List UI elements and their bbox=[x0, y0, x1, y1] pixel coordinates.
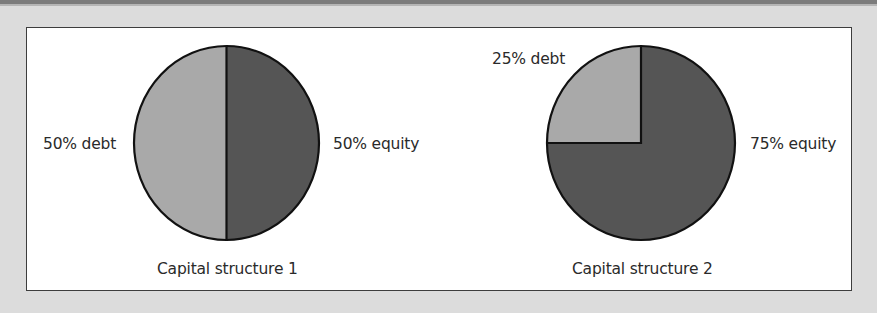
pie1-equity-label: 50% equity bbox=[333, 135, 419, 153]
pie-chart-2 bbox=[547, 46, 735, 240]
pie-chart-1 bbox=[134, 46, 319, 240]
pie1-caption: Capital structure 1 bbox=[157, 260, 298, 278]
pie2-caption: Capital structure 2 bbox=[572, 260, 713, 278]
pie2-debt-label: 25% debt bbox=[492, 50, 565, 68]
pie1-debt-label: 50% debt bbox=[43, 135, 116, 153]
pie1-equity-slice bbox=[227, 46, 319, 240]
pie2-equity-label: 75% equity bbox=[750, 135, 836, 153]
pie-charts bbox=[0, 0, 877, 313]
pie1-debt-slice bbox=[134, 46, 226, 240]
